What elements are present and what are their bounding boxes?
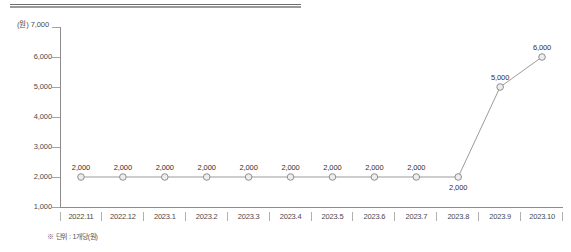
data-point-value-label: 2,000 [239, 163, 257, 172]
x-axis-category-labels: 2022.112022.122023.12023.22023.32023.420… [60, 210, 563, 224]
x-axis-category-label: 2022.12 [102, 210, 144, 224]
data-point-value-label: 2,000 [72, 163, 90, 172]
x-axis-category-label: 2023.6 [353, 210, 395, 224]
y-axis-tick-mark [52, 207, 60, 208]
data-point-value-label: 2,000 [365, 163, 383, 172]
series-data-point [78, 174, 85, 181]
y-axis-tick-mark [52, 147, 60, 148]
chart-footnote: ※ 단위 : 1개당(원) [47, 231, 98, 241]
data-point-value-label: 2,000 [156, 163, 174, 172]
x-axis-category-label: 2023.4 [270, 210, 312, 224]
y-axis-tick-mark [52, 57, 60, 58]
y-axis-tick-mark [52, 87, 60, 88]
y-axis-tick-mark [52, 27, 60, 28]
series-data-point [497, 84, 504, 91]
data-point-value-label: 2,000 [323, 163, 341, 172]
data-point-value-label: 6,000 [533, 43, 551, 52]
series-data-point [413, 174, 420, 181]
x-axis-category-label: 2023.8 [437, 210, 479, 224]
data-point-value-label: 2,000 [449, 183, 467, 192]
chart-page: (원) 7,000 6,0005,0004,0003,0002,0001,000… [0, 0, 571, 252]
series-data-point [120, 174, 127, 181]
series-data-point [371, 174, 378, 181]
series-data-point [287, 174, 294, 181]
series-marker-group [78, 54, 546, 181]
series-data-point [161, 174, 168, 181]
data-point-value-label: 2,000 [114, 163, 132, 172]
series-data-point [245, 174, 252, 181]
data-point-value-label: 2,000 [281, 163, 299, 172]
x-axis-category-label: 2022.11 [60, 210, 102, 224]
data-point-value-label: 2,000 [407, 163, 425, 172]
series-data-point [455, 174, 462, 181]
series-data-point [203, 174, 210, 181]
x-axis-category-label: 2023.3 [228, 210, 270, 224]
data-point-value-label: 2,000 [198, 163, 216, 172]
x-axis-category-label: 2023.2 [186, 210, 228, 224]
x-axis-category-label: 2023.10 [521, 210, 563, 224]
data-point-value-label: 5,000 [491, 73, 509, 82]
y-axis-tick-mark [52, 117, 60, 118]
x-axis-category-label: 2023.5 [312, 210, 354, 224]
x-axis-category-label: 2023.1 [144, 210, 186, 224]
series-data-point [539, 54, 546, 61]
x-axis-category-label: 2023.7 [395, 210, 437, 224]
series-line-path [81, 57, 542, 177]
y-axis-tick-mark [52, 177, 60, 178]
x-axis-category-label: 2023.9 [479, 210, 521, 224]
series-data-point [329, 174, 336, 181]
